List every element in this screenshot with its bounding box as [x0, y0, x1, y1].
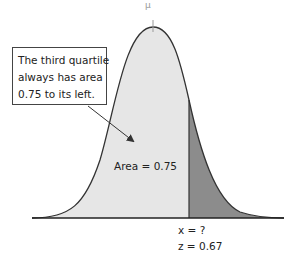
right-tail-area	[189, 100, 284, 218]
normal-curve-diagram: μ The third quartile always has area 0.7…	[0, 0, 294, 256]
normal-curve-svg	[0, 0, 294, 256]
callout-line: The third quartile	[18, 52, 101, 69]
callout-line: 0.75 to its left.	[18, 86, 101, 103]
mean-label: μ	[145, 0, 151, 10]
callout-box: The third quartile always has area 0.75 …	[12, 47, 107, 105]
callout-line: always has area	[18, 69, 101, 86]
z-label: z = 0.67	[178, 240, 222, 252]
x-label: x = ?	[178, 224, 205, 236]
area-label: Area = 0.75	[114, 160, 177, 172]
